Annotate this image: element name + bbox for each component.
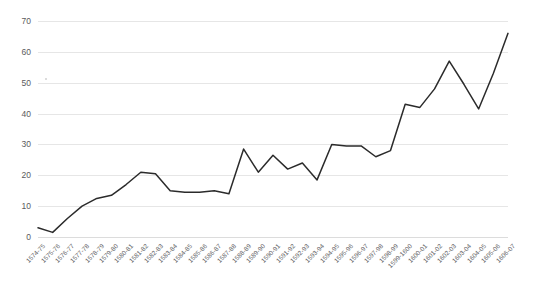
y-tick-label-10: 10 [22,202,31,211]
y-tick-label-60: 60 [22,48,31,57]
gridline-0 [38,237,508,238]
plot-area [38,21,508,237]
series-line-svg [38,21,508,237]
y-tick-label-30: 30 [22,140,31,149]
series-line-path [38,33,508,232]
y-tick-label-20: 20 [22,171,31,180]
y-tick-label-50: 50 [22,78,31,87]
stray-speck [45,78,47,80]
x-axis: 1574-751575-761576-771577-781578-791579-… [0,240,535,287]
y-tick-label-70: 70 [22,17,31,26]
line-chart: 010203040506070 1574-751575-761576-77157… [0,0,535,287]
y-tick-label-40: 40 [22,109,31,118]
